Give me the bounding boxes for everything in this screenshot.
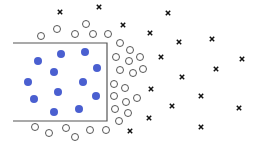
open-circle-points	[32, 21, 147, 141]
filled-points	[24, 48, 101, 116]
open-circle-point	[87, 127, 94, 134]
cross-point	[159, 55, 163, 59]
open-circle-point	[63, 125, 70, 132]
open-circle-point	[72, 31, 79, 38]
open-circle-point	[134, 95, 141, 102]
open-circle-point	[103, 127, 110, 134]
open-circle-point	[112, 106, 119, 113]
scatter-diagram	[0, 0, 257, 149]
open-circle-point	[117, 67, 124, 74]
cross-point	[210, 37, 214, 41]
filled-point	[54, 88, 62, 96]
cross-point	[180, 75, 184, 79]
filled-point	[50, 108, 58, 116]
cross-point	[148, 31, 152, 35]
open-circle-point	[116, 118, 123, 125]
open-circle-point	[140, 66, 147, 73]
cross-point	[147, 116, 151, 120]
open-circle-point	[105, 31, 112, 38]
open-circle-point	[117, 40, 124, 47]
filled-point	[50, 68, 58, 76]
open-circle-point	[137, 54, 144, 61]
filled-point	[75, 105, 83, 113]
cross-point	[177, 40, 181, 44]
cross-point	[128, 129, 132, 133]
open-circle-point	[126, 58, 133, 65]
open-circle-point	[111, 93, 118, 100]
open-circle-point	[83, 21, 90, 28]
filled-point	[34, 57, 42, 65]
open-circle-point	[130, 70, 137, 77]
filled-point	[24, 78, 32, 86]
open-circle-point	[125, 110, 132, 117]
open-circle-point	[127, 47, 134, 54]
cross-point	[97, 5, 101, 9]
cross-point	[166, 11, 170, 15]
filled-point	[79, 78, 87, 86]
cross-point	[149, 87, 153, 91]
cross-point	[121, 23, 125, 27]
filled-point	[57, 50, 65, 58]
open-circle-point	[32, 124, 39, 131]
filled-point	[93, 64, 101, 72]
open-circle-point	[123, 99, 130, 106]
filled-point	[92, 92, 100, 100]
open-circle-point	[111, 81, 118, 88]
open-circle-point	[122, 85, 129, 92]
open-circle-point	[38, 33, 45, 40]
filled-point	[81, 48, 89, 56]
open-circle-point	[54, 26, 61, 33]
cross-point	[199, 125, 203, 129]
filled-point	[30, 95, 38, 103]
open-circle-point	[72, 134, 79, 141]
cross-point	[58, 10, 62, 14]
cross-point	[240, 57, 244, 61]
open-circle-point	[90, 31, 97, 38]
cross-point	[237, 106, 241, 110]
open-circle-point	[113, 54, 120, 61]
cross-point	[214, 67, 218, 71]
cross-point	[199, 94, 203, 98]
cross-point	[170, 104, 174, 108]
open-circle-point	[46, 130, 53, 137]
